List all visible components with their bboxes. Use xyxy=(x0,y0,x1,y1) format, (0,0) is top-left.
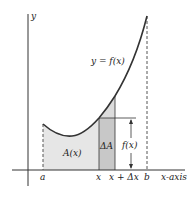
tick-b-label: b xyxy=(144,172,150,182)
tick-x-label: x xyxy=(96,172,101,182)
arrow-up-icon xyxy=(129,119,133,124)
area-function-diagram: y y = f(x) A(x) ΔA f(x) a x x + Δx b x-a… xyxy=(0,0,195,198)
area-label: A(x) xyxy=(62,148,82,158)
delta-area-label: ΔA xyxy=(99,141,113,151)
tick-x-dx-label: x + Δx xyxy=(109,172,139,182)
x-axis-label: x-axis xyxy=(161,172,187,182)
fx-height-label: f(x) xyxy=(121,140,138,150)
y-axis-label: y xyxy=(30,11,37,21)
tick-a-label: a xyxy=(40,172,45,182)
arrow-down-icon xyxy=(129,164,133,169)
curve-label: y = f(x) xyxy=(90,56,125,66)
